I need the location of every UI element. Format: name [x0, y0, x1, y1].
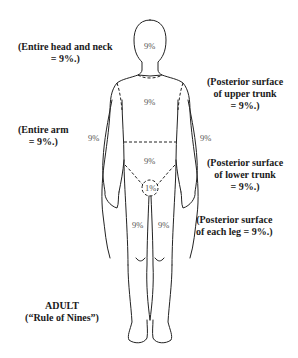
arm-annotation: (Entire arm = 9%.) — [18, 124, 69, 148]
head-percent: 9% — [144, 41, 155, 51]
upper-trunk-percent: 9% — [144, 97, 155, 107]
head-annotation: (Entire head and neck = 9%.) — [18, 41, 113, 65]
lower-trunk-annotation: (Posterior surface of lower trunk = 9%.) — [207, 157, 283, 193]
figure-title: ADULT (“Rule of Nines”) — [18, 300, 106, 324]
perineum-percent: 1% — [145, 183, 156, 193]
leg-annotation: (Posterior surface of each leg = 9%.) — [196, 214, 273, 238]
right-leg-percent: 9% — [158, 220, 169, 230]
left-arm-percent: 9% — [88, 133, 99, 143]
left-leg-percent: 9% — [132, 220, 143, 230]
upper-trunk-annotation: (Posterior surface of upper trunk = 9%.) — [207, 76, 283, 112]
right-arm-percent: 9% — [200, 133, 211, 143]
lower-trunk-percent: 9% — [144, 156, 155, 166]
